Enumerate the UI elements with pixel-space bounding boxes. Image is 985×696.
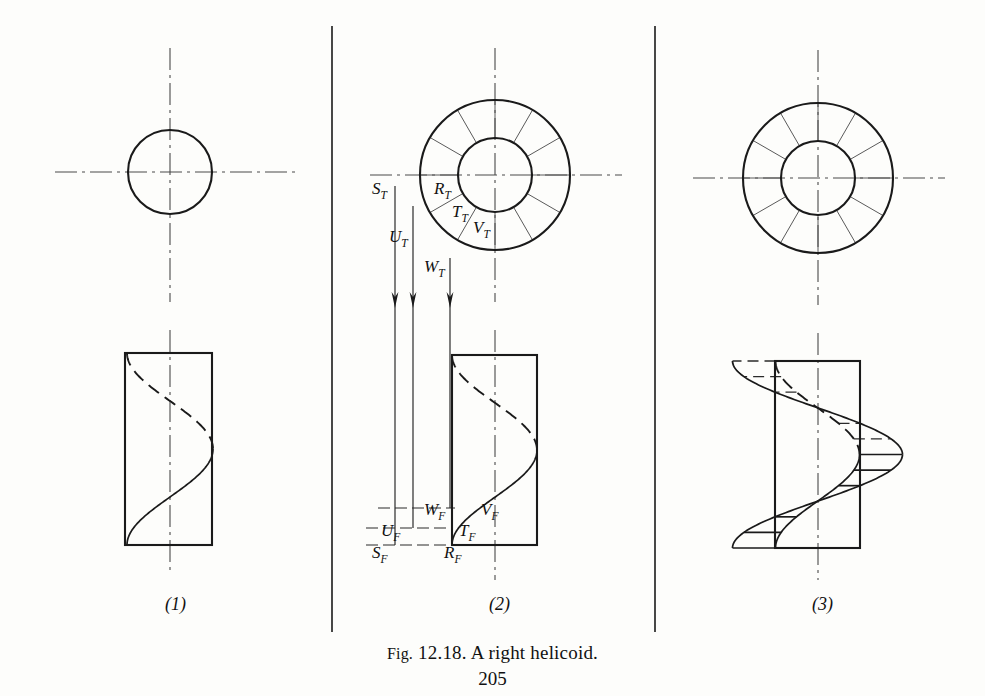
view-3-group — [693, 50, 945, 580]
radial-spoke — [850, 141, 883, 160]
figure-caption: Fig. 12.18. A right helicoid. — [0, 642, 985, 664]
radial-spoke — [527, 194, 560, 213]
view-number-labels: (1)(2)(3) — [165, 594, 833, 615]
view-number-1: (1) — [165, 594, 186, 615]
view-1-front-view — [125, 330, 213, 572]
view-2-top-view — [370, 48, 622, 302]
point-label-rf: RF — [443, 543, 462, 565]
panel-dividers — [332, 26, 655, 632]
point-label-sf: SF — [372, 543, 389, 565]
view-3-top-view — [693, 50, 945, 305]
point-label-ut: UT — [389, 227, 409, 249]
radial-spoke — [458, 110, 477, 143]
radial-spoke — [514, 207, 533, 240]
radial-spoke — [753, 197, 786, 216]
point-label-vt: VT — [473, 218, 491, 240]
radial-spoke — [430, 138, 463, 157]
front-view-rectangle — [125, 353, 212, 545]
caption-number: 12.18. — [418, 642, 467, 663]
point-label-tf: TF — [459, 521, 476, 543]
radial-spoke — [781, 113, 800, 146]
view-number-2: (2) — [489, 594, 510, 615]
view-1-top-view — [55, 48, 297, 302]
view-3-front-view — [733, 333, 903, 580]
radial-spoke — [514, 110, 533, 143]
radial-spoke — [850, 197, 883, 216]
outer-helix-lower-curve — [733, 455, 903, 549]
point-label-wf: WF — [424, 500, 446, 522]
view-2-front-view — [452, 330, 537, 580]
radial-spoke — [527, 138, 560, 157]
radial-spoke — [837, 113, 856, 146]
point-label-vf: VF — [481, 500, 499, 522]
caption-text: A right helicoid. — [471, 642, 598, 663]
radial-spoke — [837, 210, 856, 243]
front-view-point-labels: WFVFUFTFSFRF — [372, 500, 499, 565]
figure-container: STRTTTVTUTWT WFVFUFTFSFRF ( — [0, 0, 985, 696]
caption-prefix: Fig. — [387, 645, 413, 662]
view-number-3: (3) — [812, 594, 833, 615]
technical-drawing-svg: STRTTTVTUTWT WFVFUFTFSFRF ( — [0, 0, 985, 696]
point-label-wt: WT — [424, 257, 446, 279]
view-2-group: STRTTTVTUTWT WFVFUFTFSFRF — [366, 48, 622, 580]
radial-spoke — [781, 210, 800, 243]
point-label-tt: TT — [452, 202, 469, 224]
point-label-st: ST — [372, 179, 389, 201]
point-label-rt: RT — [433, 179, 452, 201]
projector-u-w — [410, 206, 417, 528]
view-1-group — [55, 48, 297, 572]
point-label-uf: UF — [381, 521, 401, 543]
page-number: 205 — [0, 668, 985, 690]
top-view-point-labels: STRTTTVTUTWT — [372, 179, 491, 279]
radial-spoke — [753, 141, 786, 160]
